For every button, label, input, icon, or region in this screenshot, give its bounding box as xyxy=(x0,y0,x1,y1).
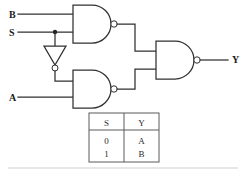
nand-gate-2-bubble-icon xyxy=(111,86,117,92)
truth-table-cell-s-1: 1 xyxy=(104,149,109,159)
logic-circuit-figure: B S A Y S Y 0 A 1 xyxy=(0,0,246,170)
truth-table-cell-s-0: 0 xyxy=(104,136,109,146)
nand-gate-2 xyxy=(73,70,111,108)
truth-table-cell-y-1: B xyxy=(138,149,144,159)
truth-table-cell-y-0: A xyxy=(138,136,145,146)
input-label-b: B xyxy=(9,9,16,20)
truth-table-header-y: Y xyxy=(138,118,145,128)
wire-inverter-to-nand2 xyxy=(55,71,73,81)
wire-nand2-to-nand3 xyxy=(117,69,156,89)
nand-gate-3 xyxy=(156,41,194,79)
inverter-gate xyxy=(44,46,66,65)
nand-gate-1 xyxy=(73,5,111,43)
input-label-s: S xyxy=(9,27,15,38)
nand-gate-3-bubble-icon xyxy=(194,57,200,63)
truth-table-header-s: S xyxy=(104,118,109,128)
input-label-a: A xyxy=(9,92,17,103)
nand-gate-1-bubble-icon xyxy=(111,21,117,27)
truth-table: S Y 0 A 1 B xyxy=(89,113,159,162)
inverter-bubble-icon xyxy=(52,65,58,71)
wire-nand1-to-nand3 xyxy=(117,24,156,51)
output-label-y: Y xyxy=(232,54,240,65)
